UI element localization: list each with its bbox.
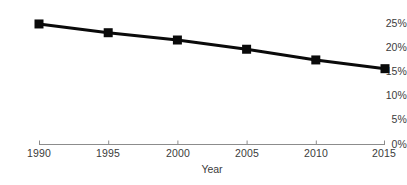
data-point-marker [242,45,251,54]
x-axis-title: Year [152,164,272,175]
data-point-marker [173,36,182,45]
x-axis-tick-label-2015: 2015 [361,148,407,159]
x-axis-tick-label-1990: 1990 [16,148,62,159]
series-markers [35,19,390,73]
series-line [39,24,385,69]
data-point-marker [381,64,390,73]
data-point-marker [35,19,44,28]
data-point-marker [311,55,320,64]
x-axis-tick-label-2000: 2000 [155,148,201,159]
x-axis-tick-label-1995: 1995 [85,148,131,159]
x-axis-tick-label-2005: 2005 [224,148,270,159]
x-axis-tick-label-2010: 2010 [293,148,339,159]
line-chart: 25% 20% 15% 10% 5% 0% 1990 1995 2000 200… [0,0,407,185]
data-point-marker [104,28,113,37]
